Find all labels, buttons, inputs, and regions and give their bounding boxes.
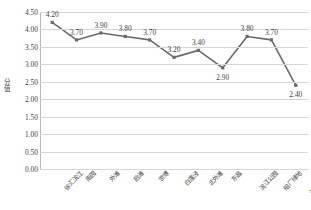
plot-area: 4.203.703.903.803.703.203.402.903.803.70… (40, 12, 308, 169)
x-axis-tick-label: 外滩 (108, 170, 121, 183)
x-axis-tick-label: 船厂绿地 (282, 170, 303, 191)
data-point-marker (197, 49, 200, 52)
data-point-label: 4.20 (46, 11, 59, 18)
y-axis-tick-label: 3.00 (25, 60, 38, 69)
data-point-label: 2.40 (289, 91, 302, 98)
x-axis-tick-label: 世博 (157, 170, 170, 183)
gridline (40, 99, 308, 100)
data-point-marker (75, 38, 78, 41)
data-point-marker (221, 66, 224, 69)
y-axis-tick-label: 0.00 (25, 165, 38, 174)
gridline (40, 82, 308, 83)
gridline (40, 117, 308, 118)
gridline (40, 64, 308, 65)
y-axis-tick-label: 2.00 (25, 95, 38, 104)
y-axis-tick-label: 1.50 (25, 112, 38, 121)
data-point-marker (172, 56, 175, 59)
y-axis-tick-label: 2.50 (25, 77, 38, 86)
x-axis-tick-label: 南园 (84, 170, 97, 183)
x-axis-tick-label: 东昌 (230, 170, 243, 183)
x-axis-tick-label: 滨江公园 (258, 170, 279, 191)
data-point-label: 3.90 (94, 22, 107, 29)
y-axis-tick-label: 1.00 (25, 130, 38, 139)
x-axis-tick-label: 滨海新片区 (309, 170, 311, 196)
data-point-label: 3.20 (168, 46, 181, 53)
data-point-marker (99, 31, 102, 34)
x-axis-tick-label: 北外滩 (208, 170, 225, 187)
y-axis-tick-label: 4.00 (25, 25, 38, 34)
data-point-marker (148, 38, 151, 41)
data-point-label: 3.80 (241, 25, 254, 32)
data-point-label: 3.70 (70, 29, 83, 36)
gridline (40, 12, 308, 13)
y-axis-tick-label: 0.50 (25, 147, 38, 156)
data-point-marker (270, 38, 273, 41)
gridline (40, 152, 308, 153)
gridline (40, 134, 308, 135)
line-chart: 分值 4.504.003.503.002.502.001.501.000.500… (0, 0, 311, 210)
x-axis-tick-label: 白莲泾 (183, 170, 200, 187)
y-axis-title-text: 分值 (3, 78, 10, 92)
data-point-label: 3.40 (192, 39, 205, 46)
y-axis-tick-label: 4.50 (25, 8, 38, 17)
y-axis-tick-label: 3.50 (25, 42, 38, 51)
data-point-label: 3.80 (119, 25, 132, 32)
data-point-marker (294, 84, 297, 87)
data-point-marker (245, 35, 248, 38)
y-axis-tick-labels: 4.504.003.503.002.502.001.501.000.500.00 (10, 12, 38, 169)
x-axis-tick-labels: 徐汇滨江南园外滩后滩世博白莲泾北外滩东昌滨江公园船厂绿地滨海新片区 (40, 170, 308, 210)
x-axis-tick-label: 后滩 (133, 170, 146, 183)
x-axis-tick-label: 徐汇滨江 (63, 170, 84, 191)
data-point-label: 3.70 (265, 29, 278, 36)
data-point-marker (124, 35, 127, 38)
data-point-label: 2.90 (216, 73, 229, 80)
data-point-label: 3.70 (143, 29, 156, 36)
data-point-marker (51, 21, 54, 24)
